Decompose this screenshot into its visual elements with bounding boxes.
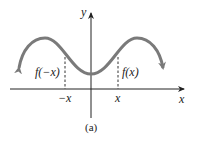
tick-neg-x: −x	[58, 91, 72, 105]
tick-pos-x: x	[114, 91, 121, 105]
label-f-x: f(x)	[122, 65, 139, 79]
label-f-neg-x: f(−x)	[35, 65, 60, 79]
x-axis-label: x	[178, 92, 185, 106]
y-axis-label: y	[80, 5, 87, 19]
even-function-graph: y x −x x f(−x) f(x) (a)	[0, 0, 198, 144]
figure-caption: (a)	[85, 121, 98, 134]
